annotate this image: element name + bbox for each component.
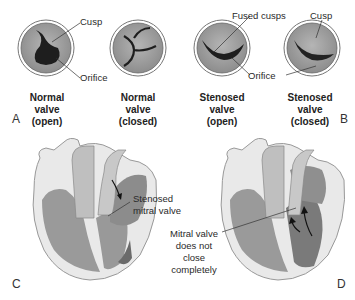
cusp-label-b: Cusp [310,10,332,21]
caption-normal-open: Normalvalve(open) [24,92,70,128]
fused-cusps-label: Fused cusps [232,10,286,21]
caption-normal-closed: Normalvalve(closed) [114,92,162,128]
normal-open-valve [18,20,74,76]
stenosed-closed-valve [284,20,340,76]
caption-stenosed-open: Stenosedvalve(open) [194,92,250,128]
panel-label-d: D [337,277,346,291]
heart-mitral-regurgitation [221,138,345,280]
orifice-label-a: Orifice [80,72,107,83]
mitral-not-close-label: Mitral valvedoes notclosecompletely [163,228,225,276]
panel-label-a: A [12,112,20,126]
normal-closed-valve [110,20,166,76]
caption-stenosed-closed: Stenosedvalve(closed) [280,92,340,128]
panel-label-c: C [12,277,21,291]
stenosed-open-valve [194,20,250,76]
stenosed-mitral-label: Stenosedmitral valve [133,193,181,217]
panel-label-b: B [340,112,348,126]
orifice-label-b: Orifice [248,70,275,81]
cusp-label-a: Cusp [80,16,102,27]
